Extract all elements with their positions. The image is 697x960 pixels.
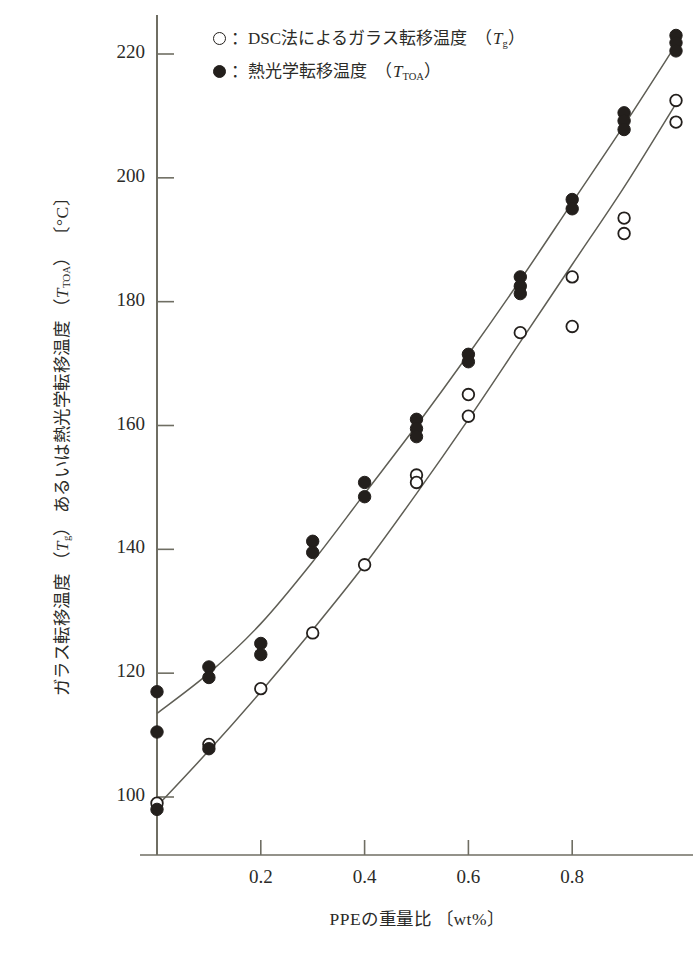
data-points-layer [151,29,682,815]
data-point-tg [463,389,475,401]
x-tick-label: 0.6 [438,866,498,888]
data-point-tg [255,683,267,695]
data-point-tg [307,627,319,639]
data-point-tg [359,559,371,571]
data-point-ttoa [566,203,578,215]
plot-area [0,0,697,960]
data-point-ttoa [151,686,163,698]
data-point-ttoa [618,123,630,135]
data-point-tg [670,116,682,128]
data-point-ttoa [514,287,526,299]
data-point-ttoa [203,671,215,683]
data-point-tg [411,477,423,489]
data-point-ttoa [203,743,215,755]
data-point-tg [463,410,475,422]
data-point-ttoa [410,430,422,442]
data-point-tg [670,95,682,107]
data-point-ttoa [358,476,370,488]
data-point-ttoa [670,45,682,57]
x-tick-label: 0.8 [542,866,602,888]
data-point-tg [566,321,578,333]
y-tick-label: 220 [97,41,145,63]
data-point-ttoa [255,637,267,649]
data-point-ttoa [462,356,474,368]
data-point-ttoa [358,491,370,503]
x-tick-label: 0.4 [335,866,395,888]
chart-figure: ：DSC法によるガラス転移温度 （Tg） ：熱光学転移温度 （TTOA） ガラス… [0,0,697,960]
data-point-ttoa [307,535,319,547]
data-point-ttoa [307,546,319,558]
data-point-ttoa [151,726,163,738]
x-tick-label: 0.2 [231,866,291,888]
fit-curve-TTOA-fit [157,45,676,714]
data-point-tg [566,271,578,283]
data-point-ttoa [151,803,163,815]
y-tick-label: 120 [97,660,145,682]
fit-curve-Tg-fit [157,104,676,807]
y-tick-label: 160 [97,413,145,435]
y-tick-label: 100 [97,784,145,806]
y-tick-label: 200 [97,165,145,187]
data-point-tg [515,327,527,339]
y-tick-label: 180 [97,289,145,311]
data-point-ttoa [255,648,267,660]
data-point-tg [618,228,630,240]
y-tick-label: 140 [97,536,145,558]
data-point-tg [618,212,630,224]
